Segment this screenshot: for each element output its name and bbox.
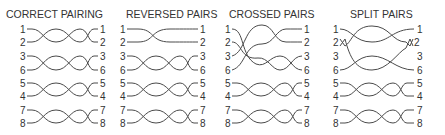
right-label: 6 xyxy=(200,65,206,76)
right-label: 5 xyxy=(417,78,423,89)
left-label: 8 xyxy=(20,118,26,129)
left-label: 7 xyxy=(20,105,26,116)
right-label: 6 xyxy=(304,65,310,76)
right-label: 4 xyxy=(200,91,206,102)
left-label: 8 xyxy=(225,118,231,129)
right-label: 7 xyxy=(100,105,106,116)
right-label: 8 xyxy=(200,118,206,129)
panel-crossed-pairs: CROSSED PAIRS 1 2 3 6 5 4 7 8 1 2 3 6 5 … xyxy=(225,8,315,129)
right-label: 2 xyxy=(414,37,420,48)
twisted-pair-wires xyxy=(27,29,98,123)
panel-correct-pairing: CORRECT PAIRING 1 2 3 6 5 4 7 8 1 2 3 6 … xyxy=(6,8,106,129)
left-label: 5 xyxy=(225,78,231,89)
panel-title: CORRECT PAIRING xyxy=(6,8,103,20)
right-label: 1 xyxy=(304,24,310,35)
left-label: 5 xyxy=(333,78,339,89)
left-label: 4 xyxy=(20,91,26,102)
right-label: 3 xyxy=(200,51,206,62)
left-label: 2 xyxy=(333,37,339,48)
left-label: 4 xyxy=(333,91,339,102)
panel-title: REVERSED PAIRS xyxy=(126,8,217,20)
left-label: 3 xyxy=(20,51,26,62)
left-label: 7 xyxy=(333,105,339,116)
left-label: 5 xyxy=(120,78,126,89)
left-label: 4 xyxy=(120,91,126,102)
left-label: 4 xyxy=(225,91,231,102)
right-label: 8 xyxy=(100,118,106,129)
left-label: 2 xyxy=(120,37,126,48)
left-label: 8 xyxy=(333,118,339,129)
left-label: 1 xyxy=(20,24,26,35)
left-label: 8 xyxy=(120,118,126,129)
split-pair-wires xyxy=(340,26,414,123)
right-label: 3 xyxy=(100,51,106,62)
panel-reversed-pairs: REVERSED PAIRS 1 2 3 6 5 4 7 8 1 2 3 6 5… xyxy=(120,8,217,129)
left-label: 5 xyxy=(20,78,26,89)
right-label: 8 xyxy=(304,118,310,129)
right-label: 4 xyxy=(304,91,310,102)
right-label: 7 xyxy=(304,105,310,116)
right-label: 8 xyxy=(417,118,423,129)
right-label: 6 xyxy=(417,65,423,76)
left-label: 7 xyxy=(120,105,126,116)
panel-title: SPLIT PAIRS xyxy=(350,8,413,20)
right-label: 7 xyxy=(417,105,423,116)
left-label: 6 xyxy=(225,65,231,76)
right-label: 1 xyxy=(200,24,206,35)
right-label: 5 xyxy=(304,78,310,89)
left-label: 3 xyxy=(225,51,231,62)
left-label: 6 xyxy=(120,65,126,76)
left-label: 3 xyxy=(120,51,126,62)
right-label: 5 xyxy=(100,78,106,89)
right-label: 3 xyxy=(417,51,423,62)
panel-title: CROSSED PAIRS xyxy=(229,8,315,20)
left-label: 1 xyxy=(120,24,126,35)
reversed-pair-wires xyxy=(127,29,198,123)
left-label: 2 xyxy=(225,37,231,48)
left-label: 6 xyxy=(333,65,339,76)
right-label: 2 xyxy=(100,37,106,48)
panel-split-pairs: SPLIT PAIRS 1 2 3 6 5 4 7 8 1 2 3 6 5 4 … xyxy=(333,8,423,129)
left-label: 6 xyxy=(20,65,26,76)
right-label: 6 xyxy=(100,65,106,76)
left-label: 7 xyxy=(225,105,231,116)
right-label: 7 xyxy=(200,105,206,116)
right-label: 4 xyxy=(417,91,423,102)
crossed-pair-wires xyxy=(232,25,302,123)
left-label: 1 xyxy=(333,24,339,35)
wiring-diagram: CORRECT PAIRING 1 2 3 6 5 4 7 8 1 2 3 6 … xyxy=(0,0,445,135)
right-label: 5 xyxy=(200,78,206,89)
left-label: 3 xyxy=(333,51,339,62)
left-label: 2 xyxy=(20,37,26,48)
right-label: 2 xyxy=(304,37,310,48)
right-label: 3 xyxy=(304,51,310,62)
right-label: 1 xyxy=(100,24,106,35)
right-label: 1 xyxy=(417,24,423,35)
right-label: 2 xyxy=(200,37,206,48)
left-label: 1 xyxy=(225,24,231,35)
right-label: 4 xyxy=(100,91,106,102)
